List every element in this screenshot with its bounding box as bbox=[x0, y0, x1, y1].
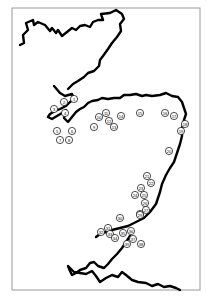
site-marker-label: 17 bbox=[172, 114, 177, 119]
site-marker[interactable]: 10 bbox=[95, 113, 102, 120]
site-marker-label: 14 bbox=[119, 114, 124, 119]
site-marker[interactable]: 26 bbox=[141, 199, 148, 206]
site-marker-label: 13 bbox=[112, 125, 117, 130]
site-marker[interactable]: 5 bbox=[53, 127, 60, 134]
site-marker[interactable]: 36 bbox=[127, 227, 134, 234]
site-marker-label: 18 bbox=[183, 122, 188, 127]
site-marker-label: 16 bbox=[163, 111, 168, 116]
site-marker[interactable]: 11 bbox=[102, 109, 109, 116]
site-marker[interactable]: 4 bbox=[61, 109, 68, 116]
site-marker[interactable]: 24 bbox=[131, 191, 138, 198]
site-marker[interactable]: 35 bbox=[119, 229, 126, 236]
site-marker[interactable]: 2 bbox=[60, 98, 67, 105]
site-marker[interactable]: 20 bbox=[165, 147, 172, 154]
site-marker[interactable]: 25 bbox=[140, 191, 147, 198]
site-marker-label: 23 bbox=[139, 186, 144, 191]
site-marker-label: 12 bbox=[107, 119, 112, 124]
site-marker-label: 25 bbox=[142, 193, 147, 198]
site-marker-label: 29 bbox=[138, 213, 143, 218]
site-marker-label: 24 bbox=[133, 193, 138, 198]
site-marker[interactable]: 22 bbox=[147, 179, 154, 186]
site-marker-label: 19 bbox=[179, 129, 184, 134]
site-marker[interactable]: 39 bbox=[123, 240, 130, 247]
site-marker[interactable]: 6 bbox=[68, 127, 75, 134]
site-marker[interactable]: 30 bbox=[116, 214, 123, 221]
site-marker-label: 32 bbox=[99, 230, 104, 235]
site-marker-label: 35 bbox=[121, 231, 126, 236]
site-marker[interactable]: 3 bbox=[50, 105, 57, 112]
site-marker[interactable]: 8 bbox=[65, 136, 72, 143]
site-marker[interactable]: 7 bbox=[56, 136, 63, 143]
site-marker[interactable]: 32 bbox=[97, 228, 104, 235]
site-marker[interactable]: 29 bbox=[136, 211, 143, 218]
site-marker-label: 27 bbox=[144, 208, 149, 213]
site-marker[interactable]: 9 bbox=[90, 123, 97, 130]
site-marker-label: 26 bbox=[143, 201, 148, 206]
site-marker[interactable]: 21 bbox=[143, 172, 150, 179]
site-marker-label: 20 bbox=[167, 149, 172, 154]
site-marker[interactable]: 19 bbox=[177, 127, 184, 134]
site-marker-label: 22 bbox=[149, 181, 154, 186]
site-marker[interactable]: 23 bbox=[137, 184, 144, 191]
site-marker-label: 38 bbox=[139, 242, 144, 247]
site-marker-label: 15 bbox=[138, 111, 143, 116]
site-marker-label: 31 bbox=[106, 226, 111, 231]
site-marker-label: 21 bbox=[145, 174, 150, 179]
site-marker[interactable]: 14 bbox=[117, 112, 124, 119]
site-marker[interactable]: 17 bbox=[170, 112, 177, 119]
site-marker-label: 39 bbox=[125, 242, 130, 247]
site-marker[interactable]: 15 bbox=[136, 109, 143, 116]
site-marker[interactable]: 37 bbox=[129, 235, 136, 242]
site-marker[interactable]: 38 bbox=[137, 240, 144, 247]
site-marker-label: 30 bbox=[118, 216, 123, 221]
coastal-site-map: 1234567891011121314151617181920212223242… bbox=[0, 0, 212, 298]
site-marker-label: 10 bbox=[97, 115, 102, 120]
site-marker[interactable]: 34 bbox=[111, 234, 118, 241]
site-marker-label: 36 bbox=[129, 229, 134, 234]
site-marker[interactable]: 1 bbox=[70, 95, 77, 102]
site-marker-label: 34 bbox=[113, 236, 118, 241]
site-marker[interactable]: 16 bbox=[161, 109, 168, 116]
site-marker[interactable]: 13 bbox=[110, 123, 117, 130]
site-marker-label: 37 bbox=[131, 237, 136, 242]
site-marker[interactable]: 18 bbox=[181, 120, 188, 127]
